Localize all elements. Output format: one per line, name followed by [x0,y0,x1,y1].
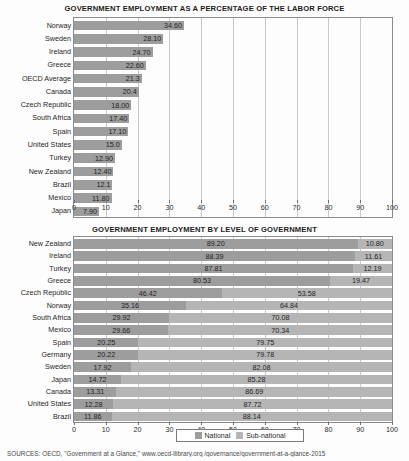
chart2-segment-subnational: 10.80 [358,239,392,249]
chart2-segment-national-value: 89.20 [207,239,225,248]
chart1-bar-value: 28.10 [143,34,161,43]
chart2-stacked-bar: 89.2010.80 [74,239,392,249]
chart2-category-label: New Zealand [29,239,71,248]
chart1-title: GOVERNMENT EMPLOYMENT AS A PERCENTAGE OF… [0,4,409,13]
chart2-segment-subnational-value: 12.19 [364,264,382,273]
chart2-stacked-bar: 80.5319.47 [74,276,392,286]
chart1-bar: 12.40 [74,167,113,177]
chart2-category-label: Canada [46,387,71,396]
chart2-segment-subnational: 64.84 [186,301,392,311]
chart1-bar-value: 12.40 [93,167,111,176]
chart1: Norway34.60Sweden28.10Ireland24.70Greece… [0,17,409,217]
chart2-category-label: Czech Republic [21,288,71,297]
chart2-bar-row: Japan14.7285.28 [74,373,392,385]
chart2-segment-subnational-value: 79.75 [256,338,274,347]
chart2-category-label: Turkey [49,263,71,272]
chart2-segment-subnational: 19.47 [330,276,392,286]
chart2-segment-subnational: 85.28 [121,375,392,385]
chart2-segment-national: 13.31 [74,387,116,397]
chart2-category-label: Germany [41,350,71,359]
chart2-segment-subnational: 79.75 [138,338,392,348]
chart2-category-label: Greece [47,276,71,285]
chart2-category-label: Brazil [53,411,71,420]
chart1-bar-row: Greece22.60 [74,58,392,71]
chart2-segment-subnational: 88.14 [112,412,392,422]
chart1-bar-row: New Zealand12.40 [74,164,392,177]
chart1-bar: 24.70 [74,47,153,57]
chart2-bar-row: New Zealand89.2010.80 [74,237,392,249]
axis-tick-label: 30 [165,425,173,434]
chart2-category-label: Mexico [48,325,71,334]
chart2-segment-national: 80.53 [74,276,330,286]
chart2-stacked-bar: 13.3186.69 [74,387,392,397]
chart1-bar: 12.1 [74,180,112,190]
chart1-bar-value: 18.00 [111,101,129,110]
chart2-stacked-bar: 46.4253.58 [74,288,392,298]
chart2-segment-national-value: 11.86 [84,412,101,421]
chart2-segment-national-value: 20.22 [97,350,115,359]
chart2-segment-national: 17.92 [74,362,131,372]
chart2-title: GOVERNMENT EMPLOYMENT BY LEVEL OF GOVERN… [0,225,409,234]
chart1-category-label: Mexico [48,193,71,202]
chart2-category-label: Ireland [49,251,71,260]
chart2-segment-subnational-value: 79.78 [256,350,274,359]
chart2-segment-national-value: 35.16 [121,301,139,310]
chart2-segment-subnational: 86.69 [116,387,392,397]
chart1-bar-row: Turkey12.90 [74,151,392,164]
chart1-bar-value: 20.4 [123,87,137,96]
chart2-legend: National Sub-national [176,429,304,442]
chart2-category-label: Spain [53,337,71,346]
chart1-category-label: Spain [53,126,71,135]
chart1-bar-row: Canada20.4 [74,84,392,97]
chart1-plot-area: Norway34.60Sweden28.10Ireland24.70Greece… [73,17,393,218]
chart1-category-label: Norway [47,20,71,29]
chart2-bar-row: Ireland88.3911.61 [74,249,392,261]
chart2-stacked-bar: 29.9270.08 [74,313,392,323]
chart2-segment-national: 20.22 [74,350,138,360]
chart2-bar-row: South Africa29.9270.08 [74,311,392,323]
chart1-bar-row: United States15.0 [74,137,392,150]
chart1-bar-row: Sweden28.10 [74,31,392,44]
chart1-bar-value: 17.40 [109,114,127,123]
chart2-segment-national: 46.42 [74,288,222,298]
legend-item-national: National [195,432,231,439]
chart2-segment-national-value: 14.72 [88,375,106,384]
chart1-category-label: Brazil [53,179,71,188]
chart2-segment-national: 20.25 [74,338,138,348]
chart2-bar-row: Brazil11.8688.14 [74,410,392,422]
chart2-bar-row: Czech Republic46.4253.58 [74,286,392,298]
chart2-segment-subnational-value: 11.61 [365,252,382,261]
axis-tick-label: 20 [134,425,142,434]
axis-tick-label: 0 [72,425,76,434]
axis-tick-label: 80 [324,203,332,212]
chart2-stacked-bar: 20.2279.78 [74,350,392,360]
axis-tick-label: 90 [356,425,364,434]
chart2-category-label: United States [28,399,71,408]
chart2-segment-national: 29.66 [74,325,168,335]
axis-tick-label: 100 [386,425,398,434]
chart2-segment-subnational-value: 82.08 [252,363,270,372]
chart1-category-label: Ireland [49,47,71,56]
chart2-segment-national: 14.72 [74,375,121,385]
chart2-segment-national: 11.86 [74,412,112,422]
chart1-category-label: Sweden [45,33,71,42]
chart1-bar-row: OECD Average21.3 [74,71,392,84]
chart2-bar-row: Norway35.1664.84 [74,299,392,311]
chart2-bar-row: Turkey87.8112.19 [74,262,392,274]
chart2-bars: New Zealand89.2010.80Ireland88.3911.61Tu… [74,237,392,422]
chart1-bars: Norway34.60Sweden28.10Ireland24.70Greece… [74,18,392,217]
chart2-stacked-bar: 87.8112.19 [74,264,392,274]
chart1-bar-value: 12.90 [95,154,113,163]
chart2-segment-national-value: 17.92 [93,363,111,372]
axis-tick-label: 20 [134,203,142,212]
legend-swatch-national-icon [195,432,202,439]
chart2-segment-subnational-value: 88.14 [243,412,261,421]
chart2-segment-national: 87.81 [74,264,353,274]
chart2-stacked-bar: 12.2887.72 [74,399,392,409]
chart2-segment-national: 88.39 [74,251,355,261]
chart1-bar-row: Spain17.10 [74,124,392,137]
chart2-segment-national-value: 87.81 [205,264,223,273]
chart2-segment-subnational: 12.19 [353,264,392,274]
chart2-segment-national-value: 20.25 [97,338,115,347]
chart2-category-label: Japan [51,374,71,383]
